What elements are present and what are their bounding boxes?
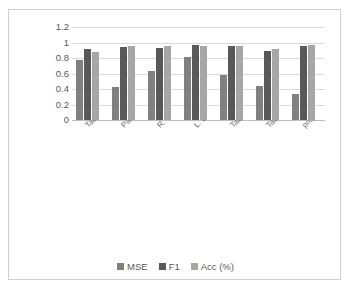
bar[interactable]: [228, 46, 235, 120]
bar[interactable]: [92, 52, 99, 120]
bar[interactable]: [84, 49, 91, 120]
bar[interactable]: [272, 49, 279, 120]
bar[interactable]: [184, 57, 191, 120]
bar[interactable]: [112, 87, 119, 120]
legend-swatch-icon: [191, 263, 198, 270]
legend-item[interactable]: MSE: [117, 262, 148, 272]
chart-legend: MSEF1Acc (%): [9, 262, 342, 272]
legend-label: F1: [169, 262, 180, 272]
legend-item[interactable]: Acc (%): [191, 262, 234, 272]
y-tick-label: 0.6: [29, 69, 69, 79]
bar[interactable]: [264, 51, 271, 120]
legend-swatch-icon: [159, 263, 166, 270]
bar[interactable]: [236, 46, 243, 120]
bar-group: [253, 27, 289, 120]
bar-group: [180, 27, 216, 120]
bar[interactable]: [128, 46, 135, 120]
bar[interactable]: [292, 94, 299, 120]
bar[interactable]: [308, 45, 315, 120]
bar-group: [217, 27, 253, 120]
bar-group: [72, 27, 108, 120]
legend-swatch-icon: [117, 263, 124, 270]
plot-area: [72, 27, 325, 120]
y-axis: 00.20.40.60.811.2: [25, 27, 69, 120]
bar[interactable]: [192, 45, 199, 120]
bars-layer: [72, 27, 325, 120]
legend-label: MSE: [127, 262, 148, 272]
legend-item[interactable]: F1: [159, 262, 180, 272]
bar[interactable]: [156, 48, 163, 120]
bar[interactable]: [120, 47, 127, 120]
x-tick-label: proposed: [301, 120, 330, 130]
y-tick-label: 1.2: [29, 22, 69, 32]
x-axis-labels: Tabelini et al. (2022a)Pan et al. (2018)…: [9, 120, 342, 255]
y-tick-label: 0.4: [29, 84, 69, 94]
bar[interactable]: [220, 75, 227, 120]
bar[interactable]: [300, 46, 307, 120]
bar-group: [144, 27, 180, 120]
bar[interactable]: [148, 71, 155, 120]
bar[interactable]: [76, 60, 83, 120]
x-tick-label: Tabelini et al. (2022a): [84, 120, 144, 130]
y-tick-label: 0.2: [29, 100, 69, 110]
bar-group: [108, 27, 144, 120]
legend-label: Acc (%): [201, 262, 234, 272]
bar-group: [289, 27, 325, 120]
bar[interactable]: [256, 86, 263, 120]
bar[interactable]: [200, 46, 207, 120]
y-tick-label: 1: [29, 38, 69, 48]
y-tick-label: 0.8: [29, 53, 69, 63]
bar[interactable]: [164, 46, 171, 120]
chart-container: 00.20.40.60.811.2 Tabelini et al. (2022a…: [8, 9, 341, 280]
